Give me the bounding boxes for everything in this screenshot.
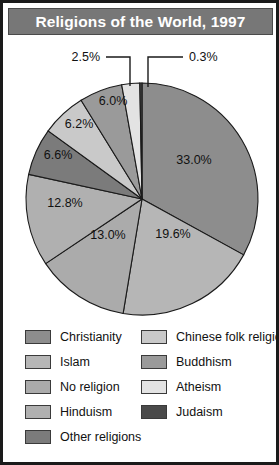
legend-swatch-icon xyxy=(25,380,51,394)
legend-item-atheism: Atheism xyxy=(141,375,279,398)
legend-item-label: Chinese folk religion xyxy=(176,330,279,344)
slice-label-no-religion: 13.0% xyxy=(90,228,125,242)
legend-column-right: Chinese folk religionBuddhismAtheismJuda… xyxy=(141,325,279,425)
legend-swatch-icon xyxy=(141,330,167,344)
pie-chart-plot-area: 33.0% 19.6% 13.0% 12.8% 6.6% 6.2% 6.0% 2… xyxy=(8,37,273,321)
legend-item-no-religion: No religion xyxy=(25,375,141,398)
legend-swatch-icon xyxy=(25,355,51,369)
leader-line-judaism xyxy=(148,57,183,87)
legend-item-buddhism: Buddhism xyxy=(141,350,279,373)
legend-item-label: Islam xyxy=(60,355,90,369)
legend-column-left: ChristianityIslamNo religionHinduismOthe… xyxy=(25,325,141,450)
legend-item-label: Buddhism xyxy=(176,355,232,369)
pie-chart-svg: 33.0% 19.6% 13.0% 12.8% 6.6% 6.2% 6.0% 2… xyxy=(8,37,273,321)
legend-item-label: Hinduism xyxy=(60,405,112,419)
legend-item-judaism: Judaism xyxy=(141,400,279,423)
slice-label-judaism: 0.3% xyxy=(189,50,218,64)
legend-item-islam: Islam xyxy=(25,350,141,373)
slice-label-atheism: 2.5% xyxy=(72,50,101,64)
legend-swatch-icon xyxy=(25,405,51,419)
legend-item-hinduism: Hinduism xyxy=(25,400,141,423)
legend-item-label: Atheism xyxy=(176,380,221,394)
slice-label-other-religions: 6.6% xyxy=(44,148,73,162)
leader-line-atheism xyxy=(106,57,130,86)
legend-swatch-icon xyxy=(141,355,167,369)
slice-label-islam: 19.6% xyxy=(155,227,190,241)
legend-swatch-icon xyxy=(141,380,167,394)
page-title: Religions of the World, 1997 xyxy=(35,13,245,31)
slice-label-hinduism: 12.8% xyxy=(47,196,82,210)
legend-item-label: No religion xyxy=(60,380,120,394)
legend-item-other-religions: Other religions xyxy=(25,425,141,448)
legend-swatch-icon xyxy=(25,330,51,344)
legend-swatch-icon xyxy=(25,430,51,444)
chart-legend: ChristianityIslamNo religionHinduismOthe… xyxy=(8,325,273,457)
legend-swatch-icon xyxy=(141,405,167,419)
legend-item-chinese-folk-religion: Chinese folk religion xyxy=(141,325,279,348)
chart-title-bar: Religions of the World, 1997 xyxy=(8,8,273,35)
chart-figure: Religions of the World, 1997 33.0% 19.6%… xyxy=(0,0,279,465)
legend-item-label: Other religions xyxy=(60,430,141,444)
slice-label-chinese-folk-religion: 6.2% xyxy=(65,117,94,131)
legend-item-christianity: Christianity xyxy=(25,325,141,348)
slice-label-buddhism: 6.0% xyxy=(99,94,128,108)
slice-label-christianity: 33.0% xyxy=(176,153,211,167)
legend-item-label: Judaism xyxy=(176,405,223,419)
legend-item-label: Christianity xyxy=(60,330,122,344)
